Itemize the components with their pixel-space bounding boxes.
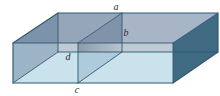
- label-b: b: [124, 27, 129, 38]
- box-diagram-svg: a b d c: [0, 0, 220, 96]
- seethrough-band-right: [122, 43, 173, 52]
- label-c: c: [75, 84, 80, 95]
- label-a: a: [114, 1, 119, 12]
- partition-through-band-region: [78, 43, 122, 52]
- box-cross-section-figure: a b d c: [0, 0, 220, 96]
